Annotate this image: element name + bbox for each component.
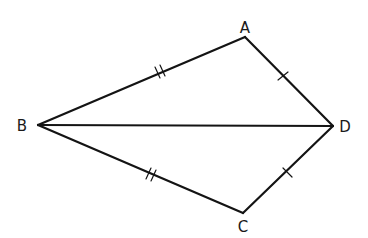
vertex-label-D: D [339, 118, 351, 136]
kite-diagram: A B D C [0, 0, 368, 238]
vertex-label-B: B [17, 117, 27, 135]
vertex-label-A: A [240, 19, 251, 37]
vertex-label-C: C [238, 218, 248, 236]
tick-marks-BA [155, 65, 165, 78]
segment-BD [38, 125, 333, 126]
segment-BC [38, 125, 243, 213]
segment-CD [243, 126, 333, 213]
segment-BA [38, 37, 245, 125]
segment-AD [245, 37, 333, 126]
